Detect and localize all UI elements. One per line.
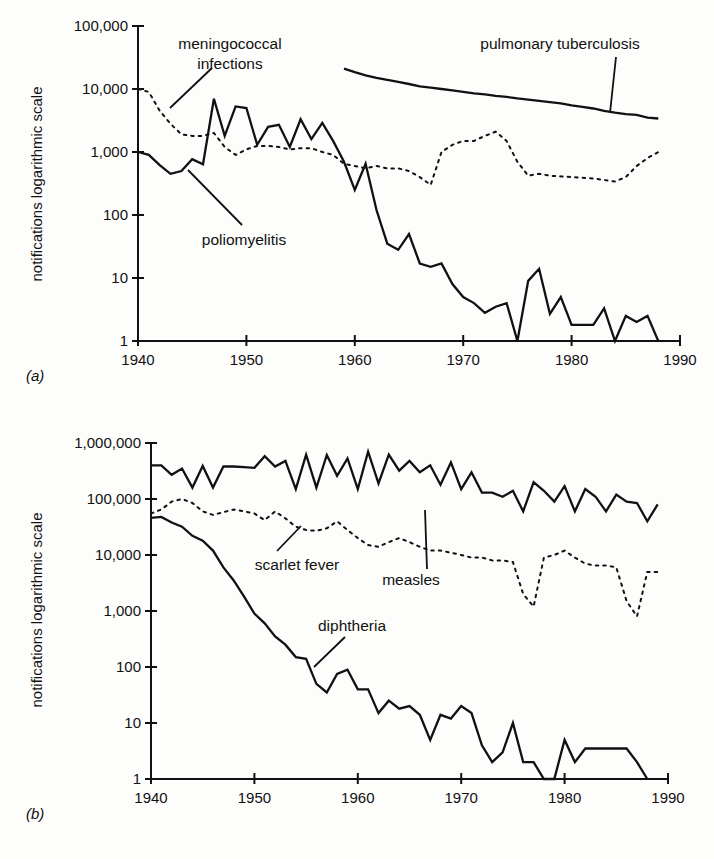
panel-a-y-tick-label: 10 xyxy=(111,269,128,286)
panel-b-chart: 1101001,00010,000100,0001,000,0001940195… xyxy=(26,434,685,822)
panel-b-y-tick-label: 1,000,000 xyxy=(74,434,141,451)
panel-b-x-tick-label: 1940 xyxy=(134,789,167,806)
diphtheria-line xyxy=(151,517,647,779)
measles-leader-line xyxy=(425,510,427,569)
measles-label: measles xyxy=(382,571,440,588)
panel-a-y-axis-label: notifications logarithmic scale xyxy=(28,86,45,281)
panel-a-series xyxy=(138,69,658,341)
panel-b-y-tick-label: 1 xyxy=(133,770,141,787)
scarlet-fever-line xyxy=(151,499,658,616)
meningococcal-label-line2: infections xyxy=(197,55,263,72)
panel-b-y-tick-label: 100 xyxy=(116,658,141,675)
panel-a-tick-labels: 1101001,00010,000100,0001940195019601970… xyxy=(74,17,697,368)
panel-a-axes xyxy=(132,26,680,346)
panel-b-y-tick-label: 10,000 xyxy=(95,546,141,563)
tuberculosis-label: pulmonary tuberculosis xyxy=(480,35,640,52)
panel-a-x-tick-label: 1970 xyxy=(447,351,480,368)
panel-b-x-tick-label: 1990 xyxy=(651,789,684,806)
panel-a-x-tick-label: 1940 xyxy=(121,351,154,368)
scarlet-fever-leader-line xyxy=(277,526,301,551)
panel-a-x-tick-label: 1990 xyxy=(663,351,696,368)
diphtheria-label: diphtheria xyxy=(318,617,386,634)
panel-a-label: (a) xyxy=(26,367,44,384)
meningococcal-label: meningococcal xyxy=(178,35,281,52)
poliomyelitis-label: poliomyelitis xyxy=(202,231,287,248)
panel-a-y-tick-label: 1 xyxy=(120,332,128,349)
panel-b-x-tick-label: 1960 xyxy=(341,789,374,806)
panel-b-label: (b) xyxy=(26,805,44,822)
panel-a-x-tick-label: 1960 xyxy=(338,351,371,368)
figure: 1101001,00010,000100,0001940195019601970… xyxy=(0,0,714,859)
scarlet-fever-label: scarlet fever xyxy=(255,556,339,573)
diphtheria-leader-line xyxy=(314,637,345,667)
panel-b-y-tick-label: 1,000 xyxy=(103,602,141,619)
panel-b-y-tick-label: 10 xyxy=(124,714,141,731)
panel-b-series xyxy=(151,452,658,779)
panel-a-x-tick-label: 1950 xyxy=(230,351,263,368)
panel-a-y-tick-label: 100,000 xyxy=(74,17,128,34)
poliomyelitis-leader-line xyxy=(188,170,242,225)
panel-a-y-tick-label: 10,000 xyxy=(82,80,128,97)
panel-b-axes xyxy=(145,443,668,784)
panel-b-x-tick-label: 1970 xyxy=(445,789,478,806)
tuberculosis-leader-line xyxy=(610,57,616,113)
panel-a-y-tick-label: 1,000 xyxy=(90,143,128,160)
panel-a-chart: 1101001,00010,000100,0001940195019601970… xyxy=(26,17,697,384)
panel-a-y-tick-label: 100 xyxy=(103,206,128,223)
meningococcal-leader-line xyxy=(170,68,212,108)
panel-b-x-tick-label: 1980 xyxy=(548,789,581,806)
panel-b-x-tick-label: 1950 xyxy=(238,789,271,806)
panel-b-y-axis-label: notifications logarithmic scale xyxy=(28,512,45,707)
panel-b-y-tick-label: 100,000 xyxy=(87,490,141,507)
poliomyelitis-line xyxy=(138,99,658,341)
panel-a-x-tick-label: 1980 xyxy=(555,351,588,368)
pulmonary-tuberculosis-line xyxy=(344,69,658,119)
